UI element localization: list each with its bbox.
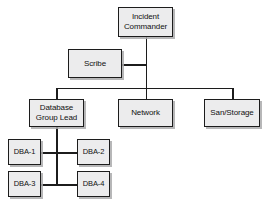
- connector-dba1-to-spine: [41, 152, 57, 154]
- node-label-dba-4: DBA-4: [81, 179, 107, 188]
- node-label-san-storage: San/Storage: [208, 108, 255, 118]
- node-san-storage[interactable]: San/Storage: [204, 99, 260, 127]
- node-label-network: Network: [129, 108, 162, 118]
- connector-spine-to-dba4: [56, 184, 77, 186]
- node-dba-1[interactable]: DBA-1: [8, 139, 41, 165]
- connector-drop-network: [146, 88, 148, 100]
- node-network[interactable]: Network: [118, 99, 173, 127]
- connector-trunk-commander: [146, 37, 148, 88]
- node-label-scribe: Scribe: [82, 59, 108, 69]
- node-dba-4[interactable]: DBA-4: [77, 171, 110, 197]
- node-database-group-lead[interactable]: Database Group Lead: [29, 99, 84, 127]
- node-label-dba-2: DBA-2: [81, 147, 107, 156]
- node-label-dba-3: DBA-3: [12, 179, 38, 188]
- connector-spine-to-dba2: [56, 152, 77, 154]
- connector-level2-bus: [56, 88, 233, 90]
- node-dba-2[interactable]: DBA-2: [77, 139, 110, 165]
- connector-drop-database-group-lead: [56, 88, 58, 100]
- connector-dba3-to-spine: [41, 184, 57, 186]
- node-label-incident-commander: Incident Commander: [122, 12, 169, 32]
- connector-drop-san-storage: [232, 88, 234, 100]
- node-label-dba-1: DBA-1: [12, 147, 38, 156]
- node-scribe[interactable]: Scribe: [68, 49, 122, 78]
- node-label-database-group-lead: Database Group Lead: [34, 103, 79, 123]
- connector-scribe-to-trunk: [122, 64, 147, 66]
- connector-spine-dba: [56, 127, 58, 184]
- node-dba-3[interactable]: DBA-3: [8, 171, 41, 197]
- org-chart-diagram: Incident Commander Scribe Database Group…: [0, 0, 276, 212]
- node-incident-commander[interactable]: Incident Commander: [118, 7, 173, 37]
